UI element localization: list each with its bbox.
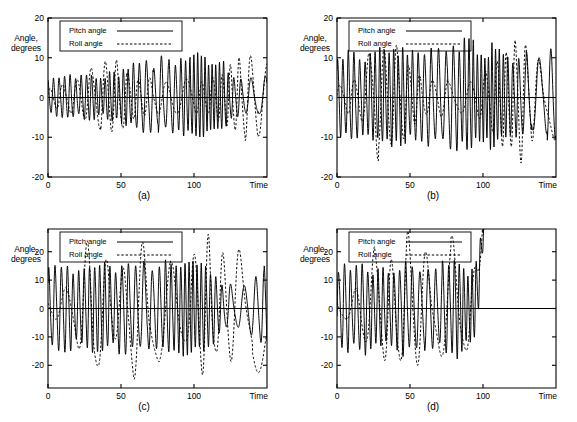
y-tick-label: 20 [324, 13, 334, 23]
x-tick-label: 50 [116, 180, 126, 190]
x-tick-label: 0 [46, 180, 51, 190]
y-tick-label: 10 [324, 275, 334, 285]
x-axis-label-c: Time [249, 391, 268, 401]
legend-label-pitch-angle: Pitch angle [358, 26, 396, 35]
legend-label-pitch-angle: Pitch angle [69, 237, 107, 246]
plot-area-c: -20-1001020050100TimePitch angleRoll ang… [0, 211, 288, 422]
x-tick-label: 100 [476, 391, 490, 401]
x-tick-label: 100 [476, 180, 490, 190]
legend-label-pitch-angle: Pitch angle [358, 237, 396, 246]
legend-label-roll-angle: Roll angle [69, 250, 103, 259]
x-axis-label-a: Time [249, 180, 268, 190]
x-axis-label-d: Time [538, 391, 557, 401]
plot-area-d: -20-1001020050100TimePitch angleRoll ang… [289, 211, 577, 422]
x-tick-label: 50 [405, 180, 415, 190]
legend-c: Pitch angleRoll angle [60, 232, 182, 262]
panel-caption-b: (b) [289, 190, 577, 201]
panel-b: -20-1001020050100TimePitch angleRoll ang… [289, 0, 577, 211]
panel-caption-c: (c) [0, 401, 288, 412]
panel-caption-d: (d) [289, 401, 577, 412]
y-tick-label: 0 [328, 304, 333, 314]
y-tick-label: 10 [324, 53, 334, 63]
y-tick-label: 10 [35, 53, 45, 63]
figure-four-panel-angle-time-series: -20-1001020050100TimePitch angleRoll ang… [0, 0, 577, 422]
x-axis-label-b: Time [538, 180, 557, 190]
y-tick-label: 20 [35, 13, 45, 23]
y-tick-label: -20 [32, 172, 45, 182]
y-axis-label-a: Angle, degrees [5, 34, 47, 53]
panel-a: -20-1001020050100TimePitch angleRoll ang… [0, 0, 288, 211]
legend-label-roll-angle: Roll angle [69, 39, 103, 48]
x-tick-label: 0 [46, 391, 51, 401]
legend-label-pitch-angle: Pitch angle [69, 26, 107, 35]
panel-d: -20-1001020050100TimePitch angleRoll ang… [289, 211, 577, 422]
y-axis-label-d: Angle, degrees [294, 245, 336, 264]
x-tick-label: 100 [187, 391, 201, 401]
y-tick-label: 0 [328, 93, 333, 103]
y-tick-label: -10 [32, 332, 45, 342]
y-tick-label: -20 [321, 360, 334, 370]
y-tick-label: -20 [321, 172, 334, 182]
x-tick-label: 50 [116, 391, 126, 401]
series-pitch-angle-d [337, 229, 484, 359]
legend-label-roll-angle: Roll angle [358, 39, 392, 48]
panel-caption-a: (a) [0, 190, 288, 201]
y-tick-label: -10 [321, 132, 334, 142]
legend-b: Pitch angleRoll angle [349, 21, 471, 51]
y-tick-label: 0 [39, 304, 44, 314]
y-tick-label: -10 [321, 332, 334, 342]
y-axis-label-b: Angle, degrees [294, 34, 336, 53]
y-tick-label: -10 [32, 132, 45, 142]
plot-area-b: -20-1001020050100TimePitch angleRoll ang… [289, 0, 577, 211]
plot-area-a: -20-1001020050100TimePitch angleRoll ang… [0, 0, 288, 211]
y-axis-label-c: Angle, degrees [5, 245, 47, 264]
legend-label-roll-angle: Roll angle [358, 250, 392, 259]
x-tick-label: 100 [187, 180, 201, 190]
y-tick-label: 0 [39, 93, 44, 103]
x-tick-label: 0 [335, 391, 340, 401]
x-tick-label: 0 [335, 180, 340, 190]
y-tick-label: -20 [32, 360, 45, 370]
x-tick-label: 50 [405, 391, 415, 401]
y-tick-label: 10 [35, 275, 45, 285]
legend-a: Pitch angleRoll angle [60, 21, 182, 51]
panel-c: -20-1001020050100TimePitch angleRoll ang… [0, 211, 288, 422]
